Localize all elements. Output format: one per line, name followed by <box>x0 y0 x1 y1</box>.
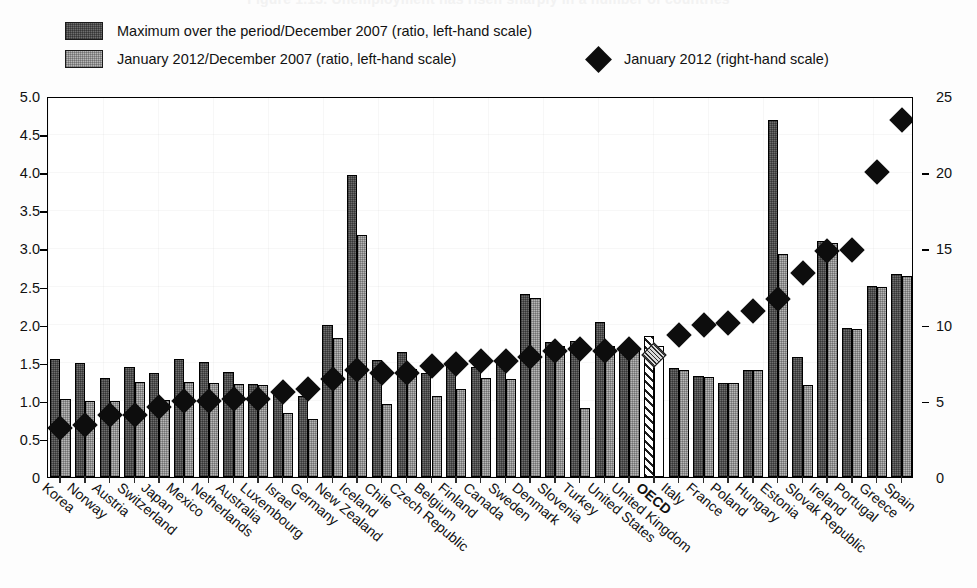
category-tick-mark <box>876 476 877 483</box>
chart-plot-area <box>47 97 913 478</box>
diamond-marker-january <box>716 310 741 335</box>
diamond-marker-january <box>691 312 716 337</box>
left-axis: 5.04.54.03.53.02.52.01.51.00.50 <box>0 97 40 478</box>
bar-maximum-ratio <box>421 373 431 477</box>
bar-january-ratio <box>85 401 95 477</box>
category-tick-mark <box>826 476 827 483</box>
left-axis-tick-mark <box>40 249 47 251</box>
left-axis-tick-label: 4.0 <box>20 166 40 181</box>
bar-january-ratio <box>456 389 466 477</box>
bar-maximum-ratio <box>867 286 877 477</box>
right-axis-tick-mark <box>922 402 929 404</box>
left-axis-tick-mark <box>40 364 47 366</box>
page-title: Figure 1.13. Unemployment has risen shar… <box>247 0 730 7</box>
category-tick-mark <box>703 476 704 483</box>
bar-maximum-ratio <box>496 360 506 477</box>
bar-january-ratio <box>728 383 738 477</box>
category-tick-mark <box>183 476 184 483</box>
bar-maximum-ratio <box>792 357 802 477</box>
diamond-marker-january <box>864 159 889 184</box>
bar-maximum-ratio <box>446 366 456 477</box>
right-axis: 2520151050 <box>922 97 972 478</box>
bar-january-ratio <box>877 287 887 478</box>
cropped-title-strip: Figure 1.13. Unemployment has risen shar… <box>0 0 977 14</box>
left-axis-tick-label: 1.0 <box>20 395 40 410</box>
right-axis-tick-mark <box>922 249 929 251</box>
category-tick-mark <box>802 476 803 483</box>
category-tick-mark <box>109 476 110 483</box>
bar-january-ratio <box>679 370 689 477</box>
bar-maximum-ratio <box>520 294 530 477</box>
category-tick-mark <box>134 476 135 483</box>
bar-maximum-ratio <box>100 378 110 477</box>
bar-maximum-ratio <box>669 368 679 477</box>
bar-dark-swatch-icon <box>65 22 103 40</box>
bar-january-ratio <box>382 404 392 477</box>
legend-label-january: January 2012/December 2007 (ratio, left-… <box>117 52 456 67</box>
bar-maximum-ratio <box>298 396 308 477</box>
right-axis-tick-label: 0 <box>936 471 944 486</box>
right-axis-tick-mark <box>922 173 929 175</box>
left-axis-tick-label: 0.5 <box>20 433 40 448</box>
right-axis-tick-label: 20 <box>936 166 952 181</box>
left-axis-tick-label: 5.0 <box>20 90 40 105</box>
bar-january-ratio <box>704 377 714 477</box>
category-tick-mark <box>381 476 382 483</box>
diamond-marker-january <box>666 323 691 348</box>
bar-january-ratio <box>135 382 145 477</box>
bar-january-ratio <box>530 298 540 477</box>
right-axis-tick-label: 15 <box>936 242 952 257</box>
bar-january-ratio <box>506 379 516 477</box>
bar-maximum-ratio <box>619 346 629 477</box>
category-tick-mark <box>752 476 753 483</box>
legend-item-january-right: January 2012 (right-hand scale) <box>583 50 829 69</box>
category-tick-mark <box>777 476 778 483</box>
right-axis-tick-label: 5 <box>936 395 944 410</box>
category-tick-mark <box>431 476 432 483</box>
chart-legend: Maximum over the period/December 2007 (r… <box>0 14 977 88</box>
bar-january-ratio <box>283 413 293 477</box>
bar-january-ratio <box>481 378 491 477</box>
category-tick-mark <box>554 476 555 483</box>
diamond-marker-january <box>839 237 864 262</box>
right-axis-tick-label: 10 <box>936 318 952 333</box>
plot-series-layer <box>48 98 912 477</box>
category-tick-mark <box>455 476 456 483</box>
left-axis-tick-mark <box>40 402 47 404</box>
bar-maximum-ratio <box>718 383 728 477</box>
bar-maximum-ratio <box>174 359 184 477</box>
legend-label-maximum: Maximum over the period/December 2007 (r… <box>117 24 532 39</box>
bar-january-ratio <box>555 346 565 477</box>
right-axis-tick-mark <box>922 326 929 328</box>
bar-january-ratio <box>333 338 343 477</box>
diamond-marker-january <box>790 260 815 285</box>
category-tick-mark <box>84 476 85 483</box>
category-tick-mark <box>480 476 481 483</box>
bar-january-ratio <box>308 419 318 477</box>
bar-maximum-ratio <box>743 370 753 477</box>
category-tick-mark <box>282 476 283 483</box>
bar-maximum-ratio <box>347 175 357 478</box>
bar-maximum-ratio <box>693 376 703 477</box>
bar-january-ratio <box>852 329 862 477</box>
legend-label-january-right: January 2012 (right-hand scale) <box>624 52 829 67</box>
left-axis-tick-mark <box>40 440 47 442</box>
category-tick-mark <box>208 476 209 483</box>
category-tick-mark <box>332 476 333 483</box>
bar-maximum-ratio <box>891 274 901 477</box>
bar-january-ratio <box>629 348 639 477</box>
diamond-marker-january <box>740 298 765 323</box>
category-tick-mark <box>59 476 60 483</box>
category-tick-mark <box>901 476 902 483</box>
diamond-marker-january <box>889 108 913 133</box>
bar-january-ratio <box>827 243 837 477</box>
bar-january-ratio <box>753 370 763 477</box>
category-tick-mark <box>307 476 308 483</box>
category-axis-labels: KoreaNorwayAustriaSwitzerlandJapanMexico… <box>47 480 913 588</box>
category-tick-mark <box>505 476 506 483</box>
bar-light-swatch-icon <box>65 50 103 68</box>
left-axis-tick-label: 3.5 <box>20 204 40 219</box>
bar-january-ratio <box>580 408 590 477</box>
left-axis-tick-label: 1.5 <box>20 356 40 371</box>
category-tick-mark <box>356 476 357 483</box>
